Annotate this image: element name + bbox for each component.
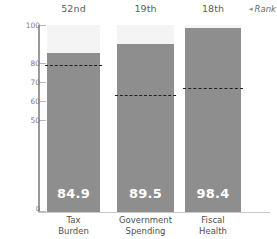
y-tick-70 (40, 82, 46, 83)
rank-label-tax-burden: 52nd (47, 3, 100, 14)
value-label-government-spending: 89.5 (117, 186, 174, 201)
y-tick-label-50: 50 (30, 116, 40, 125)
rank-label-fiscal-health: 18th (185, 3, 241, 14)
category-label-line-2: Burden (47, 226, 100, 237)
category-label-tax-burden: Tax Burden (47, 215, 100, 236)
rank-legend-label: Rank (255, 4, 276, 14)
reference-line-fiscal-health (183, 88, 243, 89)
y-tick-label-60: 60 (30, 97, 40, 106)
category-label-government-spending: Government Spending (112, 215, 179, 236)
chart-container: 52nd 19th 18th ◂Rank 100 80 70 60 50 0 8… (0, 0, 277, 239)
value-label-fiscal-health: 98.4 (185, 186, 241, 201)
y-tick-label-70: 70 (30, 78, 40, 87)
y-tick-50 (40, 120, 46, 121)
category-label-line-1: Tax (47, 215, 100, 226)
category-label-line-1: Fiscal (185, 215, 241, 226)
x-axis-baseline (38, 212, 270, 213)
category-label-fiscal-health: Fiscal Health (185, 215, 241, 236)
left-arrow-icon: ◂ (249, 5, 253, 13)
y-tick-100 (40, 25, 46, 26)
reference-line-government-spending (115, 95, 176, 96)
category-label-line-1: Government (112, 215, 179, 226)
value-label-tax-burden: 84.9 (47, 186, 100, 201)
y-tick-label-80: 80 (30, 59, 40, 68)
y-tick-60 (40, 101, 46, 102)
bar-fiscal-health (185, 28, 241, 212)
rank-label-government-spending: 19th (117, 3, 174, 14)
rank-legend: ◂Rank (249, 4, 276, 14)
rank-header-row: 52nd 19th 18th ◂Rank (0, 0, 277, 20)
category-label-line-2: Health (185, 226, 241, 237)
y-tick-80 (40, 63, 46, 64)
reference-line-tax-burden (45, 65, 102, 66)
y-tick-label-100: 100 (26, 21, 40, 30)
category-label-line-2: Spending (112, 226, 179, 237)
